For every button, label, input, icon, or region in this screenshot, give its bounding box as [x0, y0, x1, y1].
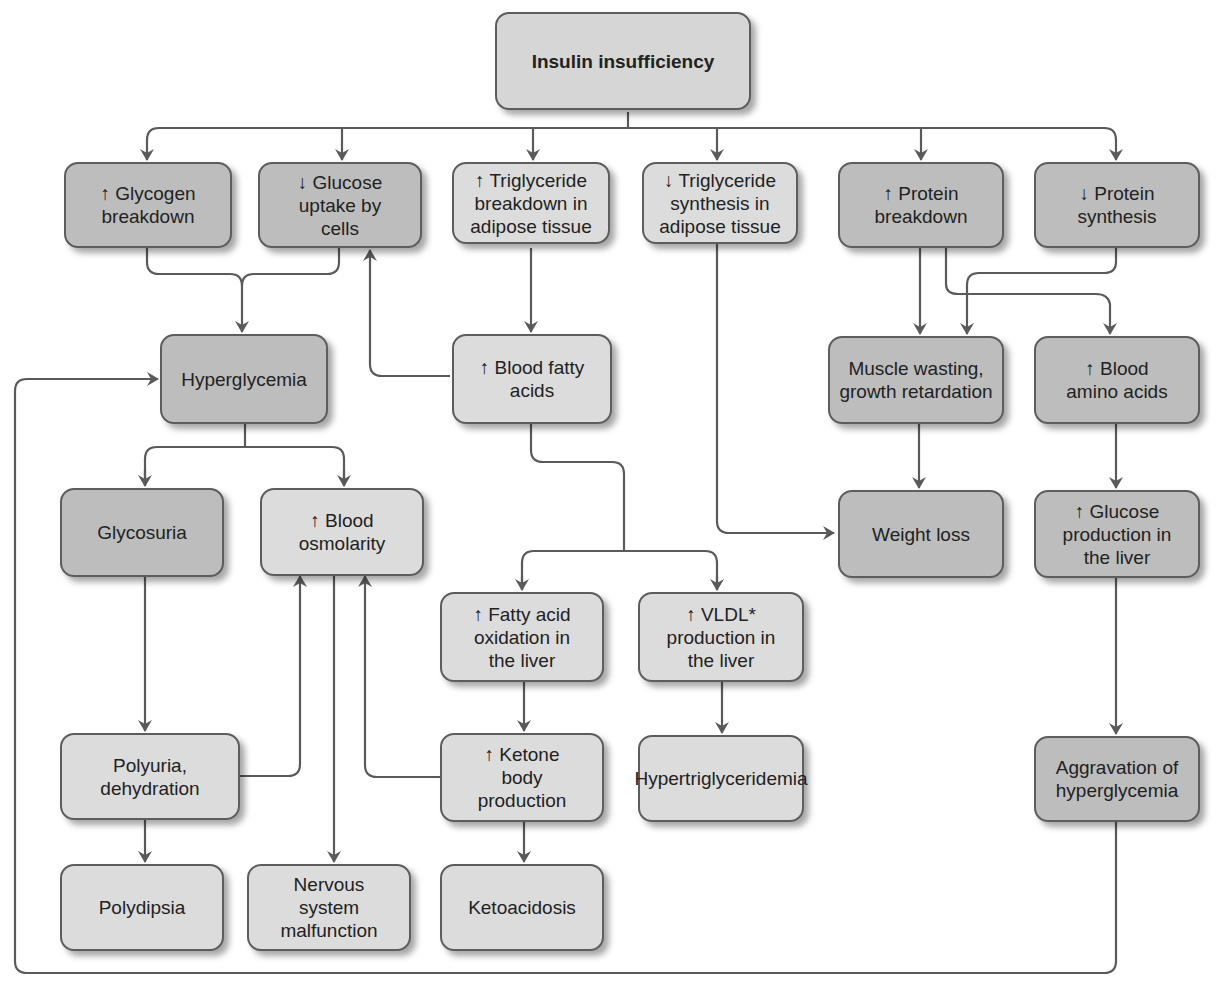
node-blood-amino-acids: ↑ Blood amino acids [1034, 336, 1200, 424]
node-hypertriglyceridemia: Hypertriglyceridemia [638, 735, 804, 822]
node-blood-fatty-acids: ↑ Blood fatty acids [452, 334, 612, 424]
node-ketone-production: ↑ Ketone body production [440, 733, 604, 822]
node-weight-loss: Weight loss [838, 490, 1004, 578]
node-glucose-uptake: ↓ Glucose uptake by cells [258, 162, 422, 248]
node-glucose-production-liver: ↑ Glucose production in the liver [1034, 490, 1200, 578]
node-nervous-system: Nervous system malfunction [247, 864, 411, 951]
node-polyuria: Polyuria, dehydration [60, 733, 240, 820]
node-muscle-wasting: Muscle wasting, growth retardation [828, 336, 1004, 424]
node-protein-breakdown: ↑ Protein breakdown [838, 162, 1004, 248]
node-polydipsia: Polydipsia [60, 864, 224, 951]
node-vldl-production: ↑ VLDL* production in the liver [638, 592, 804, 682]
node-hyperglycemia: Hyperglycemia [160, 334, 328, 424]
node-protein-synthesis: ↓ Protein synthesis [1034, 162, 1200, 248]
node-aggravation-hyperglycemia: Aggravation of hyperglycemia [1034, 736, 1200, 822]
node-insulin-insufficiency: Insulin insufficiency [495, 12, 751, 110]
node-ketoacidosis: Ketoacidosis [440, 864, 604, 951]
node-glycosuria: Glycosuria [60, 488, 224, 577]
node-triglyceride-synthesis: ↓ Triglyceride synthesis in adipose tiss… [642, 162, 798, 244]
node-blood-osmolarity: ↑ Blood osmolarity [260, 488, 424, 576]
node-fatty-acid-oxidation: ↑ Fatty acid oxidation in the liver [440, 592, 604, 682]
node-glycogen-breakdown: ↑ Glycogen breakdown [64, 162, 232, 248]
node-triglyceride-breakdown: ↑ Triglyceride breakdown in adipose tiss… [452, 162, 610, 244]
